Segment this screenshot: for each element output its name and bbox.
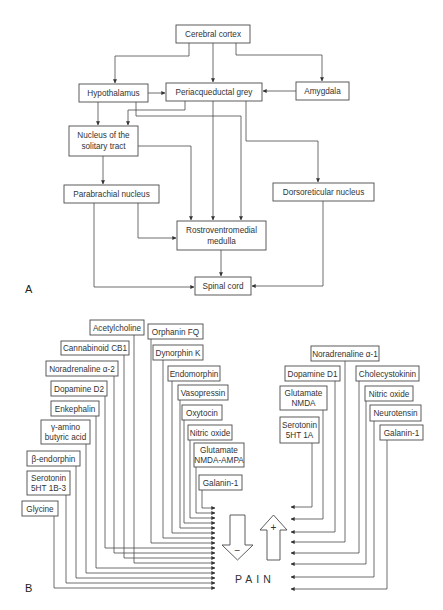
inhibitor-label: Serotonin: [31, 474, 66, 483]
inhibitor-item: γ-amino butyric acid: [41, 420, 90, 444]
inhibitor-label: Oxytocin: [186, 409, 218, 418]
inhibitor-label: NMDA-AMPA: [194, 456, 244, 465]
node-label: Nucleus of the: [77, 131, 130, 140]
inhibitor-label: Endomorphin: [170, 370, 219, 379]
excitator-item: Neurotensin: [370, 405, 421, 421]
excitator-label: Neurotensin: [373, 409, 418, 418]
node-label: medulla: [207, 237, 236, 246]
node-spinal-cord: Spinal cord: [195, 277, 251, 295]
down-arrow-inhibition: −: [222, 515, 253, 560]
panel-b: Acetylcholine Cannabinoid CB1 Noradrenal…: [22, 320, 423, 594]
inhibitor-label: Acetylcholine: [93, 324, 142, 333]
inhibitor-item: Cannabinoid CB1: [61, 341, 129, 355]
inhibitor-label: Vasopressin: [181, 389, 226, 398]
panel-b-label: B: [25, 582, 32, 594]
excitator-item: Dopamine D1: [285, 366, 340, 381]
inhibitor-item: β-endorphin: [27, 451, 80, 466]
inhibitor-label: γ-amino: [51, 423, 81, 432]
inhibitor-item: Orphanin FQ: [148, 324, 203, 339]
up-arrow-excitation: +: [260, 515, 287, 560]
inhibitor-item: Vasopressin: [178, 385, 228, 400]
inhibitor-item: Glutamate NMDA-AMPA: [194, 443, 244, 467]
node-label: Hypothalamus: [87, 89, 139, 98]
node-label: Spinal cord: [203, 282, 244, 291]
panel-a: Cerebral cortex Hypothalamus Periacquedu…: [25, 25, 374, 295]
node-hypothalamus: Hypothalamus: [79, 84, 148, 102]
inhibitor-label: Cannabinoid CB1: [63, 344, 128, 353]
inhibitor-item: Dopamine D2: [51, 381, 107, 396]
inhibitor-item: Acetylcholine: [90, 320, 144, 335]
inhibitor-label: Glycine: [26, 505, 54, 514]
node-nucleus-solitary-tract: Nucleus of the solitary tract: [69, 126, 138, 156]
node-label: Rostroventromedial: [186, 226, 257, 235]
node-label: Parabrachial nucleus: [73, 190, 149, 199]
excitator-item: Nitric oxide: [365, 386, 413, 401]
inhibitor-item: Endomorphin: [168, 366, 220, 381]
node-parabrachial-nucleus: Parabrachial nucleus: [64, 185, 159, 203]
node-label: Cerebral cortex: [185, 30, 241, 39]
node-dorsoreticular-nucleus: Dorsoreticular nucleus: [273, 183, 374, 201]
node-amygdala: Amygdala: [296, 82, 349, 100]
pain-pathway-figure: Cerebral cortex Hypothalamus Periacquedu…: [0, 0, 443, 610]
excitator-item: Cholecystokinin: [356, 366, 419, 381]
minus-sign: −: [235, 545, 241, 556]
inhibitor-label: butyric acid: [45, 433, 87, 442]
plus-sign: +: [271, 522, 277, 533]
excitator-label: Glutamate: [285, 389, 323, 398]
node-label: Periacqueductal grey: [176, 88, 254, 97]
inhibitor-item: Noradrenaline α-2: [46, 361, 118, 376]
inhibitor-item: Nitric oxide: [188, 425, 232, 440]
inhibitory-list: Acetylcholine Cannabinoid CB1 Noradrenal…: [22, 320, 244, 516]
inhibitor-label: Noradrenaline α-2: [49, 365, 115, 374]
inhibitor-item: Oxytocin: [182, 405, 222, 420]
excitator-item: Noradrenaline α-1: [311, 346, 379, 361]
node-rostroventromedial-medulla: Rostroventromedial medulla: [177, 221, 266, 250]
node-label: Amygdala: [304, 87, 341, 96]
inhibitor-label: Glutamate: [200, 446, 238, 455]
inhibitor-label: Orphanin FQ: [152, 328, 199, 337]
inhibitor-label: Galanin-1: [203, 479, 239, 488]
excitator-label: NMDA: [291, 399, 316, 408]
excitatory-list: Noradrenaline α-1 Dopamine D1 Glutamate …: [280, 346, 423, 443]
node-label: Dorsoreticular nucleus: [283, 188, 364, 197]
excitator-label: Cholecystokinin: [359, 370, 417, 379]
pain-label: PAIN: [235, 573, 275, 585]
excitator-item: Galanin-1: [380, 425, 423, 440]
inhibitor-item: Galanin-1: [199, 475, 242, 490]
excitator-item: Glutamate NMDA: [280, 386, 327, 410]
excitator-item: Serotonin 5HT 1A: [280, 417, 319, 443]
excitator-label: Noradrenaline α-1: [312, 350, 378, 359]
inhibitor-item: Glycine: [22, 501, 58, 516]
excitator-label: 5HT 1A: [286, 431, 314, 440]
inhibitor-label: β-endorphin: [32, 455, 76, 464]
node-cerebral-cortex: Cerebral cortex: [176, 25, 250, 43]
excitator-label: Dopamine D1: [287, 370, 338, 379]
inhibitor-item: Serotonin 5HT 1B-3: [27, 471, 70, 495]
excitator-label: Serotonin: [282, 421, 317, 430]
inhibitor-label: Dopamine D2: [54, 385, 105, 394]
inhibitor-label: 5HT 1B-3: [31, 484, 66, 493]
inhibitor-label: Nitric oxide: [190, 429, 231, 438]
inhibitor-item: Dynorphin K: [153, 345, 203, 360]
excitator-label: Galanin-1: [384, 429, 420, 438]
inhibitor-label: Dynorphin K: [155, 349, 201, 358]
node-label: solitary tract: [81, 142, 126, 151]
inhibitor-item: Enkephalin: [51, 401, 99, 416]
excitator-label: Nitric oxide: [369, 390, 410, 399]
node-periaqueductal-grey: Periacqueductal grey: [166, 83, 262, 101]
inhibitor-label: Enkephalin: [55, 405, 96, 414]
panel-a-label: A: [25, 283, 33, 295]
